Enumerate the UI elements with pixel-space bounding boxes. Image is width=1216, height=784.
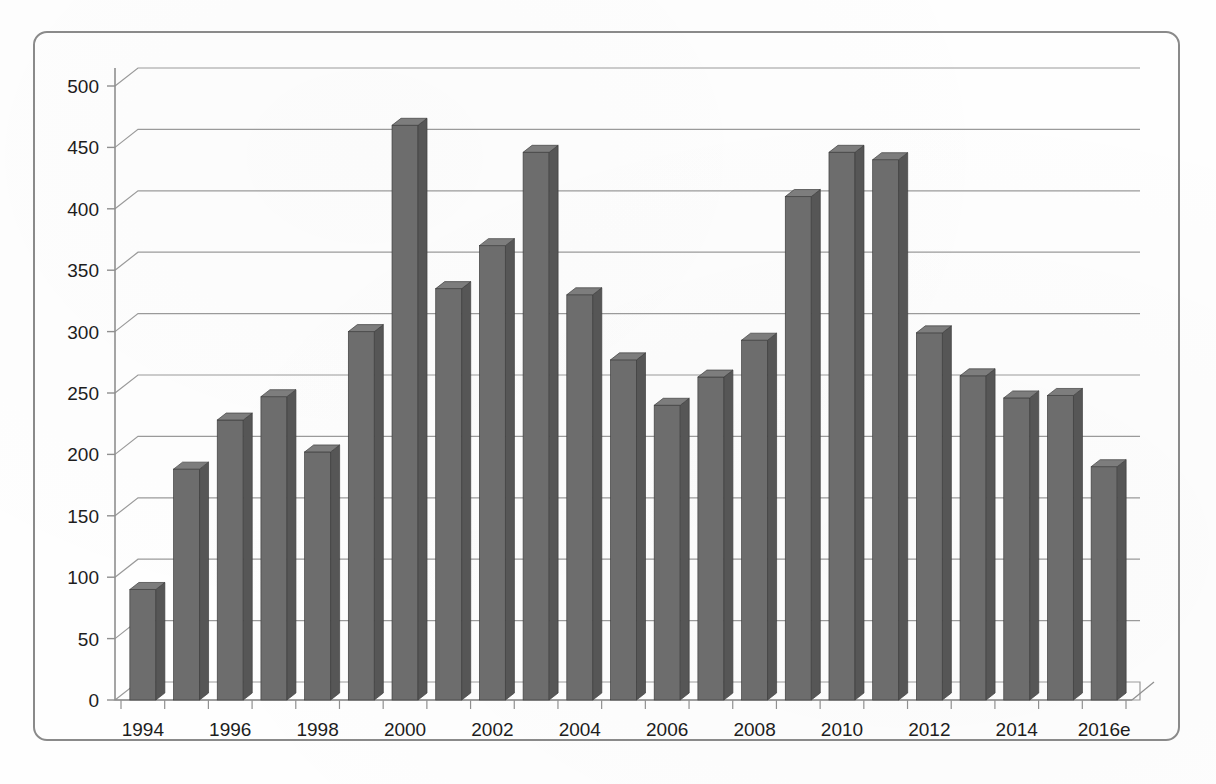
bar [261, 390, 296, 700]
bar-front-face [348, 332, 374, 700]
bar-front-face [392, 125, 418, 700]
bar-front-face [305, 452, 331, 700]
bar-front-face [523, 152, 549, 700]
y-axis-tick-label: 450 [67, 137, 99, 158]
x-axis-tick-label: 2002 [471, 719, 513, 740]
y-axis-labels: 050100150200250300350400450500 [67, 76, 99, 711]
y-axis-tick-label: 500 [67, 76, 99, 97]
x-axis-tick-label: 2014 [996, 719, 1039, 740]
floor-right-edge [1132, 682, 1154, 700]
bar-side-face [287, 390, 296, 700]
bar-side-face [374, 325, 383, 700]
bar [305, 445, 340, 700]
bar [654, 398, 689, 700]
bar-side-face [768, 333, 777, 700]
gridline [115, 314, 1140, 332]
bar-front-face [1047, 395, 1073, 700]
bar-side-face [331, 445, 340, 700]
bar-front-face [174, 469, 200, 700]
gridline [115, 191, 1140, 209]
x-axis-tick-label: 2008 [733, 719, 775, 740]
bar-front-face [960, 376, 986, 700]
y-axis-tick-label: 400 [67, 199, 99, 220]
bar-side-face [724, 370, 733, 700]
bar-front-face [611, 360, 637, 700]
bar-side-face [680, 398, 689, 700]
gridline [115, 252, 1140, 270]
x-axis-tick-label: 2000 [384, 719, 426, 740]
bar-front-face [916, 333, 942, 700]
bar-front-face [873, 160, 899, 700]
bar-side-face [986, 369, 995, 700]
bar-side-face [942, 326, 951, 700]
bar-side-face [637, 353, 646, 700]
bar [829, 145, 864, 700]
bar-side-face [1117, 460, 1126, 700]
bar-side-face [156, 582, 165, 700]
y-axis-tick-label: 250 [67, 383, 99, 404]
bar-side-face [243, 413, 252, 700]
x-axis-tick-label: 2016e [1078, 719, 1131, 740]
bar-front-face [1004, 398, 1030, 700]
gridline [115, 129, 1140, 147]
bar-front-face [829, 152, 855, 700]
bar-front-face [130, 589, 156, 700]
x-axis-tick-label: 1994 [122, 719, 165, 740]
bar [436, 282, 471, 700]
bar [479, 239, 514, 700]
bar-side-face [462, 282, 471, 700]
y-axis-tick-label: 50 [78, 629, 99, 650]
bar-front-face [261, 397, 287, 700]
bar [1004, 391, 1039, 700]
bar-front-face [785, 197, 811, 700]
bar [916, 326, 951, 700]
bar-front-face [217, 420, 243, 700]
bar [1047, 388, 1082, 700]
y-axis-tick-label: 300 [67, 322, 99, 343]
bar-side-face [899, 153, 908, 700]
bar-side-face [1030, 391, 1039, 700]
bar-front-face [1091, 467, 1117, 700]
bars-group [130, 118, 1126, 700]
x-axis-tick-label: 2006 [646, 719, 688, 740]
bar-front-face [742, 340, 768, 700]
bar [348, 325, 383, 700]
y-axis-tick-label: 150 [67, 506, 99, 527]
bar [873, 153, 908, 700]
gridline [115, 68, 1140, 86]
bar-side-face [418, 118, 427, 700]
y-axis-tick-label: 100 [67, 567, 99, 588]
bar-front-face [436, 289, 462, 700]
bar-side-face [855, 145, 864, 700]
bar-side-face [811, 190, 820, 700]
bar [392, 118, 427, 700]
bar-front-face [698, 377, 724, 700]
bar-side-face [549, 145, 558, 700]
bar [742, 333, 777, 700]
bar [567, 288, 602, 700]
y-axis-ticks [107, 86, 115, 700]
bar-side-face [200, 462, 209, 700]
bar [960, 369, 995, 700]
x-axis-tick-label: 2010 [821, 719, 863, 740]
bar [698, 370, 733, 700]
x-axis-tick-label: 2004 [559, 719, 602, 740]
y-axis-tick-label: 0 [88, 690, 99, 711]
bar-side-face [505, 239, 514, 700]
bar [785, 190, 820, 700]
x-axis-tick-label: 1996 [209, 719, 251, 740]
bar [217, 413, 252, 700]
bar [174, 462, 209, 700]
bar-side-face [1073, 388, 1082, 700]
bar-front-face [479, 246, 505, 700]
x-axis-tick-label: 1998 [296, 719, 338, 740]
x-axis-tick-label: 2012 [908, 719, 950, 740]
y-axis-tick-label: 200 [67, 444, 99, 465]
bar-front-face [567, 295, 593, 700]
bar-chart: 050100150200250300350400450500 199419961… [0, 0, 1216, 784]
x-axis-ticks [121, 700, 1126, 709]
bar [130, 582, 165, 700]
bar [523, 145, 558, 700]
bar [611, 353, 646, 700]
y-axis-tick-label: 350 [67, 260, 99, 281]
